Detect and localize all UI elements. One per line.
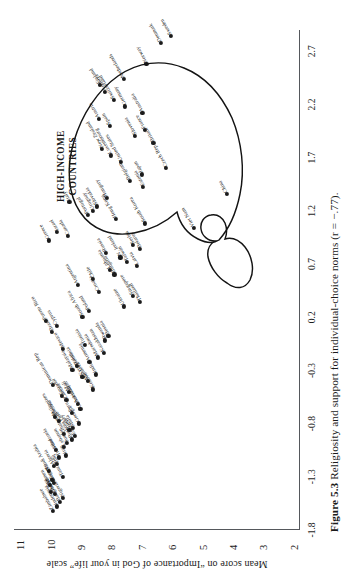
data-point-label: Sweden (160, 18, 173, 36)
x-tick-label: 0.2 (307, 311, 317, 323)
data-point-label: Ukraine (112, 288, 126, 306)
rotated-figure-container: -1.8-1.3-0.8-0.30.20.71.21.72.22.7 11109… (0, 0, 360, 572)
data-point-label: Belgium (118, 161, 132, 180)
data-point (76, 422, 80, 426)
data-point-label: Viet Nam (180, 206, 195, 227)
data-point (140, 173, 144, 177)
x-tick-label: 2.2 (307, 99, 317, 111)
data-point-label: Dominican Rep (33, 352, 55, 385)
data-point (73, 434, 77, 438)
data-point-label: Canada (57, 219, 70, 236)
y-tick-label: 8 (106, 545, 117, 550)
y-axis-title: Mean score on “Importance of God in your… (47, 559, 268, 570)
data-point-label: Chile (85, 265, 96, 278)
figure-page: -1.8-1.3-0.8-0.30.20.71.21.72.22.7 11109… (0, 0, 360, 572)
data-point-label: Austria (88, 102, 101, 119)
y-tick-label: 6 (167, 545, 178, 550)
x-tick-label: 1.2 (307, 205, 317, 217)
y-tick-label: 7 (136, 545, 147, 550)
data-point-label: China (218, 179, 229, 193)
data-point-label: Norway (135, 46, 149, 64)
annotation-line-2: COUNTRIES (67, 130, 78, 202)
x-tick-label: -1.8 (307, 522, 317, 537)
y-tick-label: 2 (288, 545, 299, 550)
caption-text: Religiosity and support for individual-c… (328, 192, 340, 479)
high-income-annotation: HIGH-INCOME COUNTRIES (56, 130, 79, 202)
data-point-label: Puerto Rico (30, 296, 48, 321)
data-point (112, 273, 116, 277)
annotation-line-1: HIGH-INCOME (56, 130, 67, 202)
scatter-plot: -1.8-1.3-0.8-0.30.20.71.21.72.22.7 11109… (14, 30, 300, 530)
figure-number: Figure 5.3 (328, 483, 340, 532)
figure-caption: Figure 5.3 Religiosity and support for i… (328, 32, 340, 532)
data-point-label: Spain (101, 112, 112, 126)
y-tick-label: 9 (75, 545, 86, 550)
data-point (121, 305, 125, 309)
data-point-label: Czech Rep (152, 144, 169, 167)
x-tick-label: -1.3 (307, 469, 317, 484)
data-point (143, 222, 147, 226)
y-tick-label: 11 (15, 540, 26, 550)
x-axis (299, 30, 300, 530)
y-tick-label: 10 (45, 540, 56, 551)
x-tick-label: -0.3 (307, 363, 317, 378)
data-point-label: France (135, 114, 147, 130)
data-point (109, 153, 113, 157)
y-axis (14, 529, 300, 530)
data-point (55, 505, 59, 509)
y-tick-label: 5 (197, 545, 208, 550)
data-point-label: Mexico (52, 331, 65, 348)
data-point (114, 217, 118, 221)
data-point (64, 453, 68, 457)
x-tick-label: 2.7 (307, 45, 317, 57)
data-point (93, 373, 97, 377)
x-tick-label: -0.8 (307, 416, 317, 431)
y-tick-label: 3 (258, 545, 269, 550)
data-point-label: Greece (39, 224, 51, 240)
data-point-label: Argentina (64, 263, 80, 285)
data-point-label: Hungary (95, 178, 109, 197)
figure: -1.8-1.3-0.8-0.30.20.71.21.72.22.7 11109… (0, 0, 360, 572)
x-tick-label: 1.7 (307, 152, 317, 164)
data-point-label: South Korea (129, 196, 148, 223)
x-tick-label: 0.7 (307, 258, 317, 270)
data-point-label: Netherlands (108, 53, 126, 79)
data-point (47, 239, 51, 243)
y-tick-label: 4 (228, 545, 239, 550)
data-point (96, 356, 100, 360)
data-point-label: Australia (130, 92, 145, 112)
data-point (95, 205, 99, 209)
